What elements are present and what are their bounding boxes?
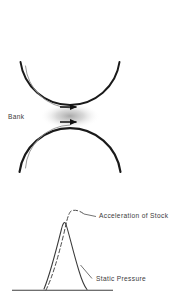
- upper-roll-inner-arc: [26, 66, 71, 108]
- acceleration-of-stock-label: Acceleration of Stock: [99, 212, 169, 219]
- static-pressure-leader-line: [81, 265, 93, 279]
- bank-label: Bank: [8, 113, 25, 120]
- roll-nip-diagram: Bank Acceleration of Stock Static Pressu…: [0, 0, 190, 303]
- acceleration-leader-line: [84, 214, 96, 217]
- lower-roll-inner-arc: [26, 125, 71, 168]
- static-pressure-curve: [44, 223, 87, 290]
- figure-root: Bank Acceleration of Stock Static Pressu…: [0, 0, 190, 303]
- static-pressure-label: Static Pressure: [96, 275, 146, 282]
